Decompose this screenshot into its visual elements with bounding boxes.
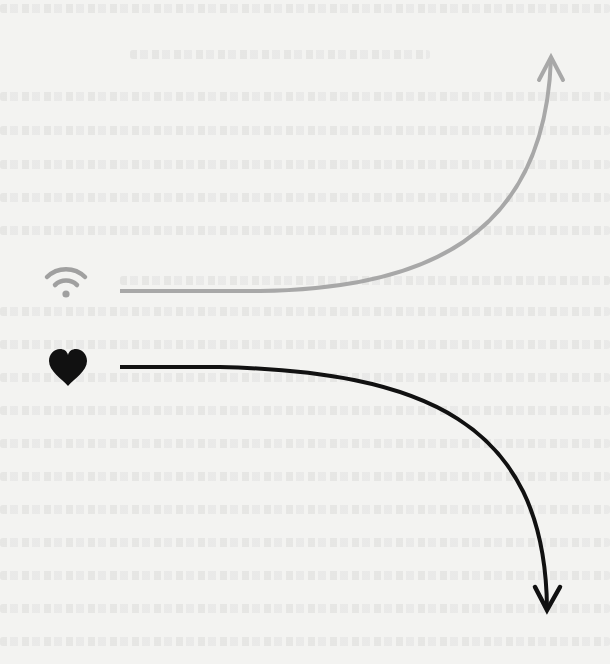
wifi-arrow-curve xyxy=(120,58,551,291)
heart-arrow xyxy=(120,367,560,610)
heart-arrow-curve xyxy=(120,367,547,608)
heart-icon xyxy=(49,349,87,386)
diagram-canvas xyxy=(0,0,610,664)
wifi-icon xyxy=(47,269,85,297)
wifi-arrow xyxy=(120,57,563,291)
diagram-page xyxy=(0,0,610,664)
